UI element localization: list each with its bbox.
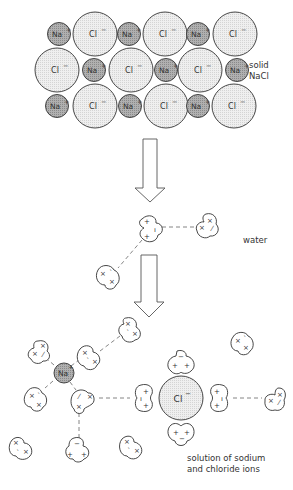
- svg-text:ı: ı: [221, 395, 223, 403]
- cl-ion: Cl−: [109, 48, 153, 92]
- svg-text:Cl: Cl: [159, 30, 167, 39]
- svg-text:+: +: [144, 218, 150, 226]
- svg-text:+: +: [143, 402, 149, 410]
- na-ion: Na+: [83, 59, 107, 82]
- solution: Na+ Cl− ××⁄ ×ˋ× ×ˋ× ×ˋ× ⁄×× ×ˋ× −++ ×ˋ× …: [9, 318, 285, 462]
- svg-text:+: +: [205, 26, 210, 34]
- svg-text:+: +: [64, 98, 69, 106]
- svg-text:×: ×: [132, 330, 138, 338]
- svg-text:×: ×: [277, 391, 283, 399]
- svg-text:×: ×: [134, 447, 140, 455]
- solid-nacl-label: solid NaCl: [249, 60, 269, 82]
- svg-text:Na: Na: [50, 102, 60, 111]
- cl-ion: Cl−: [143, 12, 187, 56]
- cl-ion: Cl−: [35, 48, 79, 92]
- svg-text:×: ×: [36, 401, 42, 409]
- svg-text:×: ×: [268, 397, 274, 405]
- svg-text:×: ×: [13, 439, 19, 447]
- svg-text:ˋ: ˋ: [243, 335, 247, 343]
- na-ion: Na+: [155, 59, 179, 82]
- svg-text:ˋ: ˋ: [127, 447, 131, 455]
- svg-text:×: ×: [76, 403, 82, 411]
- svg-text:×: ×: [32, 350, 38, 358]
- solution-label-line-1: solution of sodium: [187, 453, 265, 464]
- svg-text:+: +: [144, 233, 150, 241]
- svg-text:Na: Na: [159, 66, 169, 75]
- svg-text:×: ×: [125, 320, 131, 328]
- svg-text:Na: Na: [191, 30, 201, 39]
- svg-text:×: ×: [124, 438, 130, 446]
- na-ion: Na+: [187, 23, 211, 46]
- svg-text:×: ×: [199, 224, 205, 232]
- svg-text:Cl: Cl: [89, 102, 97, 111]
- svg-text:Cl: Cl: [229, 30, 237, 39]
- solid-label-line-2: NaCl: [249, 71, 269, 82]
- cl-ion: Cl−: [213, 12, 257, 56]
- na-ion: Na+: [187, 95, 211, 118]
- svg-text:ı: ı: [140, 395, 142, 403]
- solution-label-line-2: and chloride ions: [187, 464, 265, 475]
- svg-text:−: −: [101, 98, 106, 106]
- svg-text:+: +: [136, 26, 141, 34]
- svg-text:×: ×: [235, 337, 241, 345]
- svg-text:−: −: [240, 98, 245, 106]
- svg-text:×: ×: [87, 393, 93, 401]
- na-ion: Na+: [48, 23, 72, 46]
- na-ion-solution: Na+: [54, 363, 74, 383]
- svg-text:Na: Na: [58, 369, 68, 378]
- svg-text:+: +: [172, 362, 178, 370]
- solution-label: solution of sodium and chloride ions: [187, 453, 265, 475]
- cl-ion: Cl−: [212, 84, 256, 128]
- svg-text:−: −: [241, 26, 246, 34]
- svg-text:ˋ: ˋ: [16, 449, 20, 457]
- svg-text:+: +: [184, 429, 190, 437]
- svg-text:×: ×: [109, 278, 115, 286]
- na-ion: Na+: [226, 59, 250, 82]
- na-ion: Na+: [46, 95, 70, 118]
- svg-text:−: −: [179, 435, 185, 443]
- svg-text:ˋ: ˋ: [86, 357, 90, 365]
- nacl-lattice: Cl−Cl−Cl−Cl−Cl−Cl−Cl−Cl−Cl−Na+Na+Na+Na+N…: [35, 12, 257, 128]
- svg-text:+: +: [68, 363, 73, 370]
- svg-text:+: +: [81, 451, 87, 459]
- svg-text:Na: Na: [191, 102, 201, 111]
- svg-text:Na: Na: [122, 30, 132, 39]
- svg-text:−: −: [171, 26, 176, 34]
- svg-text:×: ×: [243, 344, 249, 352]
- svg-text:−: −: [172, 98, 177, 106]
- water-label: water: [243, 235, 267, 246]
- svg-text:−: −: [63, 62, 68, 70]
- svg-text:Cl: Cl: [228, 102, 236, 111]
- solid-label-line-1: solid: [249, 60, 269, 71]
- svg-text:+: +: [67, 451, 73, 459]
- svg-text:+: +: [214, 388, 220, 396]
- svg-text:×: ×: [207, 217, 213, 225]
- svg-text:ˋ: ˋ: [126, 329, 130, 337]
- svg-text:+: +: [137, 98, 142, 106]
- svg-text:Cl: Cl: [160, 102, 168, 111]
- svg-text:−: −: [178, 353, 184, 361]
- cl-ion: Cl−: [178, 48, 222, 92]
- svg-text:−: −: [74, 440, 80, 448]
- svg-text:Na: Na: [123, 102, 133, 111]
- svg-text:+: +: [101, 62, 106, 70]
- svg-text:Na: Na: [230, 66, 240, 75]
- svg-text:Na: Na: [87, 66, 97, 75]
- svg-text:Na: Na: [52, 30, 62, 39]
- svg-text:+: +: [205, 98, 210, 106]
- svg-text:−: −: [137, 62, 142, 70]
- svg-text:ˋ: ˋ: [37, 392, 41, 400]
- down-arrow-2: [134, 255, 164, 317]
- svg-text:Cl: Cl: [89, 30, 97, 39]
- svg-text:+: +: [66, 26, 71, 34]
- svg-text:+: +: [173, 62, 178, 70]
- svg-text:+: +: [184, 362, 190, 370]
- svg-text:×: ×: [92, 358, 98, 366]
- svg-text:×: ×: [40, 342, 46, 350]
- svg-text:×: ×: [100, 270, 106, 278]
- svg-text:−: −: [185, 390, 191, 398]
- na-ion: Na+: [118, 23, 142, 46]
- cl-ion: Cl−: [144, 84, 188, 128]
- down-arrow-1: [135, 139, 165, 202]
- svg-text:Cl: Cl: [51, 66, 59, 75]
